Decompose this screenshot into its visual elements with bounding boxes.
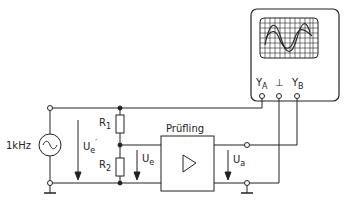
resistor-r2: R2 bbox=[99, 158, 124, 176]
svg-text:YA: YA bbox=[255, 77, 268, 91]
junction-dot bbox=[118, 106, 122, 110]
terminal-ya[interactable] bbox=[260, 94, 265, 99]
device-under-test: Prüfling bbox=[161, 123, 214, 191]
output-terminal-top[interactable] bbox=[245, 143, 250, 148]
svg-text:R1: R1 bbox=[99, 117, 111, 131]
resistor-r1: R1 bbox=[99, 115, 124, 133]
source-frequency-label: 1kHz bbox=[6, 140, 31, 151]
svg-text:Ue: Ue bbox=[142, 153, 154, 167]
voltage-ue-prime: Ue′ bbox=[75, 120, 97, 180]
input-ya-sub: A bbox=[262, 82, 268, 91]
oscilloscope: YA ⊥ YB bbox=[251, 9, 339, 101]
voltage-ua: Ua bbox=[225, 150, 245, 180]
svg-text:YB: YB bbox=[291, 77, 304, 91]
source-terminal-bottom bbox=[48, 181, 53, 186]
input-yb-sub: B bbox=[298, 82, 304, 91]
input-ground-label: ⊥ bbox=[275, 77, 284, 88]
terminal-yb[interactable] bbox=[295, 94, 300, 99]
svg-text:Ue′: Ue′ bbox=[83, 139, 97, 155]
terminal-ground[interactable] bbox=[277, 94, 282, 99]
source-terminal-top bbox=[48, 106, 53, 111]
dut-label: Prüfling bbox=[166, 123, 204, 134]
oscilloscope-screen bbox=[260, 18, 318, 58]
svg-text:Ua: Ua bbox=[233, 154, 245, 168]
junction-dot bbox=[118, 143, 122, 147]
ac-source: 1kHz bbox=[6, 106, 61, 194]
output-terminal-bottom[interactable] bbox=[245, 181, 250, 186]
svg-text:R2: R2 bbox=[99, 159, 111, 173]
junction-dot bbox=[118, 181, 122, 185]
voltage-ue: Ue bbox=[134, 150, 154, 180]
circuit-diagram: YA ⊥ YB 1kHz R1 bbox=[0, 0, 344, 209]
